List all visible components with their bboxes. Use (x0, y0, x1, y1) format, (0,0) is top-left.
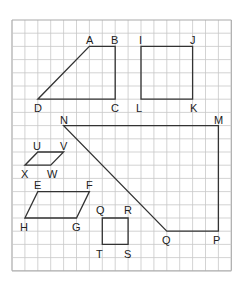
shapes (25, 46, 219, 244)
grid-lines (12, 20, 231, 271)
vertex-label-r: R (124, 204, 132, 216)
vertex-label-h: H (20, 221, 28, 233)
vertex-label-p: P (213, 234, 220, 246)
vertex-label-q: Q (162, 234, 171, 246)
vertex-label-g: G (72, 221, 81, 233)
vertex-label-b: B (111, 34, 118, 46)
vertex-label-f: F (86, 179, 93, 191)
vertex-label-q: Q (96, 204, 105, 216)
vertex-label-t: T (96, 248, 103, 260)
vertex-label-k: K (190, 102, 198, 114)
vertex-label-l: L (136, 102, 142, 114)
vertex-label-n: N (60, 114, 68, 126)
vertex-label-i: I (139, 34, 142, 46)
vertex-label-d: D (34, 102, 42, 114)
geometry-grid-diagram: ABCDIJKLNMPQUVWXEFGHQRST (0, 0, 242, 289)
vertex-label-c: C (111, 102, 119, 114)
vertex-label-j: J (190, 34, 196, 46)
vertex-label-a: A (86, 34, 94, 46)
vertex-label-m: M (214, 114, 223, 126)
vertex-label-x: X (21, 168, 29, 180)
vertex-label-v: V (60, 140, 68, 152)
parallelogram-UVWX (25, 152, 64, 165)
vertex-label-e: E (34, 179, 41, 191)
vertex-label-u: U (33, 140, 41, 152)
vertex-label-w: W (47, 168, 58, 180)
vertex-label-s: S (124, 248, 131, 260)
